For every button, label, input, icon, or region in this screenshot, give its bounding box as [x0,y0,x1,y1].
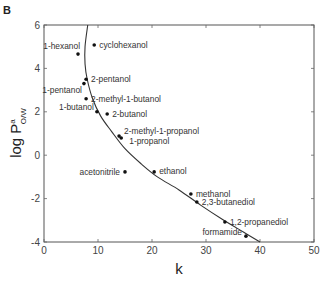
y-axis-label-main: log P [7,124,24,158]
data-point [76,52,80,56]
x-tick-label: 50 [308,245,320,256]
data-point [92,43,96,47]
x-tick-label: 10 [92,245,104,256]
y-axis-label-sub: O/W [19,108,28,124]
point-label: 1,2-propanediol [230,217,288,227]
y-tick-label: 4 [34,63,40,74]
data-point [244,234,248,238]
chart: B 01020304050 -4-20246 1-hexanolcyclohex… [0,0,326,282]
data-point [123,170,127,174]
y-tick-label: -2 [31,193,40,204]
point-label: 2-methyl-1-butanol [91,94,161,104]
x-tick-label: 30 [200,245,212,256]
data-point [95,110,99,114]
panel-label: B [3,4,11,16]
data-point [105,112,109,116]
data-point [84,77,88,81]
y-tick-label: 2 [34,106,40,117]
data-points: 1-hexanolcyclohexanol2-pentanol1-pentano… [42,40,288,238]
point-label: 1-butanol [59,102,94,112]
data-point [119,136,123,140]
point-label: 2-butanol [112,109,147,119]
point-label: 2-methyl-1-propanol [124,126,199,136]
point-label: ethanol [159,166,187,176]
y-axis-label-sup: a [8,119,17,124]
data-point [152,170,156,174]
x-tick-label: 40 [254,245,266,256]
x-tick-label: 0 [41,245,47,256]
point-label: 1-hexanol [43,41,80,51]
y-tick-label: -4 [31,237,40,248]
x-tick-label: 20 [146,245,158,256]
svg-text:log PaO/W: log PaO/W [7,108,28,158]
y-axis-label: log PaO/W [7,108,28,158]
point-label: 2,3-butanediol [202,197,255,207]
data-point [195,200,199,204]
point-label: 1-propanol [129,136,169,146]
plot-area: 01020304050 -4-20246 1-hexanolcyclohexan… [31,20,320,257]
x-axis-label: k [175,260,183,277]
data-point [189,192,193,196]
point-label: acetonitrile [79,167,120,177]
y-tick-label: 0 [34,150,40,161]
data-point [84,97,88,101]
point-label: 1-pentanol [42,85,82,95]
point-label: formamide [202,227,242,237]
y-tick-label: 6 [34,20,40,31]
point-label: 2-pentanol [91,74,131,84]
data-point [82,82,86,86]
point-label: cyclohexanol [99,40,148,50]
data-point [223,220,227,224]
